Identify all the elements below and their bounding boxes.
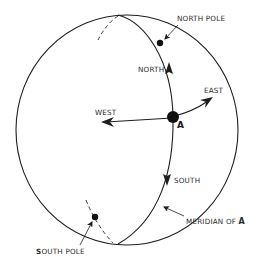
east-label: EAST	[204, 87, 223, 94]
meridian-label-text: MERIDIAN OF	[186, 217, 239, 226]
north-arrowhead-icon	[165, 62, 173, 74]
south-pole-pointer	[80, 222, 92, 245]
north-pole-pointer	[165, 25, 178, 39]
meridian-of-a	[118, 15, 173, 244]
meridian-hidden-top	[98, 16, 118, 40]
north-label: NORTH	[138, 66, 164, 73]
south-pole-label-rest: OUTH POLE	[41, 247, 84, 256]
point-a-label: A	[177, 121, 184, 130]
east-arrowhead-icon	[200, 97, 213, 108]
west-label: WEST	[95, 109, 116, 116]
south-pole-dot	[92, 214, 98, 220]
north-pole-label: NORTH POLE	[177, 15, 225, 22]
south-pole-label: SOUTH POLE	[36, 248, 85, 255]
globe-diagram: NORTH POLE NORTH EAST WEST A SOUTH MERID…	[0, 0, 260, 265]
north-pole-dot	[157, 40, 163, 46]
east-arrow	[174, 101, 208, 116]
west-arrow	[106, 118, 172, 122]
meridian-label: MERIDIAN OF A	[186, 218, 245, 226]
meridian-hidden-bottom	[86, 200, 113, 243]
meridian-pointer	[164, 207, 184, 216]
meridian-label-point: A	[239, 217, 245, 226]
globe-outline	[16, 15, 238, 245]
south-label: SOUTH	[174, 177, 200, 184]
